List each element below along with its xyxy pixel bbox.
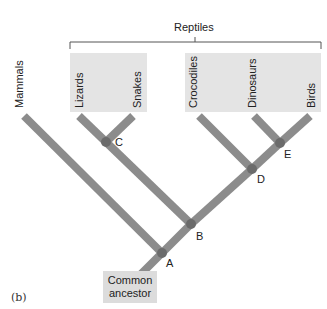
node-label-B: B [196, 230, 203, 242]
node-label-E: E [284, 148, 291, 160]
node-label-A: A [166, 257, 173, 269]
group-label-reptiles: Reptiles [174, 21, 214, 33]
taxon-label-crocodiles: Crocodiles [187, 56, 199, 108]
branch-D-E [252, 143, 280, 169]
branch-lizards [79, 116, 106, 142]
taxon-label-dinosaurs: Dinosaurs [246, 58, 258, 108]
branch-B-D [191, 169, 252, 224]
node-label-D: D [257, 173, 265, 185]
branch-dinosaurs [254, 116, 280, 143]
node-E-dot [275, 138, 285, 148]
branch-birds [280, 116, 310, 143]
panel-label: (b) [11, 291, 27, 304]
node-B-dot [186, 219, 196, 229]
branch-crocodiles [199, 116, 252, 169]
common-ancestor-line1: Common [103, 274, 157, 287]
node-D-dot [247, 164, 257, 174]
branch-A-B [162, 224, 191, 253]
taxon-label-birds: Birds [305, 83, 317, 108]
taxon-label-lizards: Lizards [73, 73, 85, 108]
taxon-label-snakes: Snakes [131, 71, 143, 108]
branch-mammals [24, 116, 162, 253]
node-C-dot [101, 137, 111, 147]
node-label-C: C [115, 136, 123, 148]
taxon-label-mammals: Mammals [13, 60, 25, 108]
common-ancestor-box: Common ancestor [103, 271, 157, 303]
common-ancestor-line2: ancestor [103, 287, 157, 300]
branches [24, 116, 310, 275]
cladogram [0, 0, 327, 309]
reptiles-bracket [70, 37, 321, 49]
